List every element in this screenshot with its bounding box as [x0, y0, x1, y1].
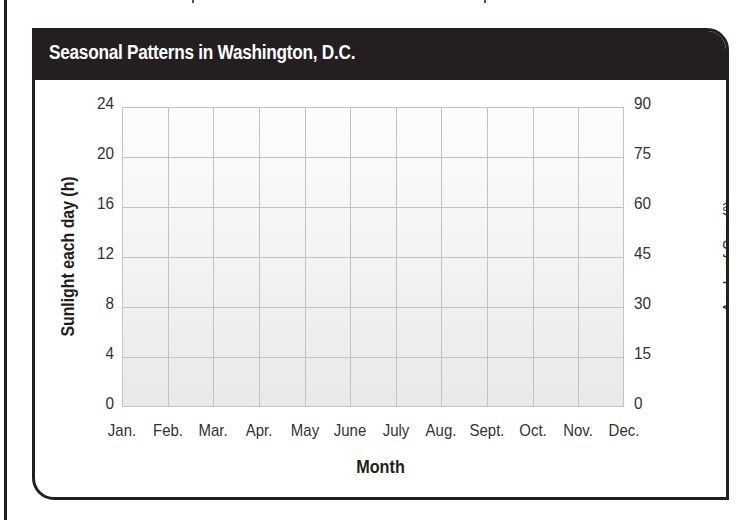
figure-header: Seasonal Patterns in Washington, D.C.	[35, 31, 726, 80]
y2-tick-label: 60	[634, 194, 670, 214]
y-tick-label: 0	[78, 394, 114, 414]
page-margin-rule	[4, 0, 7, 520]
y-tick-label: 16	[78, 194, 114, 214]
y-tick-label: 24	[78, 94, 114, 114]
grid-line-horizontal	[123, 257, 623, 258]
cropped-text-fragment	[192, 0, 194, 3]
plot-area	[122, 107, 624, 407]
grid-line-vertical	[533, 108, 534, 406]
grid-line-vertical	[396, 108, 397, 406]
grid-line-horizontal	[123, 307, 623, 308]
grid-line-horizontal	[123, 207, 623, 208]
y2-tick-label: 0	[634, 394, 670, 414]
y-tick-label: 8	[78, 294, 114, 314]
y-tick-label: 4	[78, 344, 114, 364]
grid-line-horizontal	[123, 357, 623, 358]
left-y-axis-title: Sunlight each day (h)	[58, 169, 79, 345]
y2-tick-label: 45	[634, 244, 670, 264]
grid-line-vertical	[168, 108, 169, 406]
y2-tick-label: 30	[634, 294, 670, 314]
y-tick-label: 12	[78, 244, 114, 264]
x-tick-label: Dec.	[598, 421, 651, 441]
grid-line-vertical	[259, 108, 260, 406]
grid-line-vertical	[441, 108, 442, 406]
x-tick-label: Jan.	[96, 421, 149, 441]
y2-tick-label: 75	[634, 144, 670, 164]
y2-tick-label: 15	[634, 344, 670, 364]
grid-line-vertical	[487, 108, 488, 406]
grid-line-vertical	[213, 108, 214, 406]
grid-line-vertical	[350, 108, 351, 406]
x-tick-label: Apr.	[233, 421, 286, 441]
y2-tick-label: 90	[634, 94, 670, 114]
y-tick-label: 20	[78, 144, 114, 164]
grid-line-horizontal	[123, 157, 623, 158]
x-tick-label: Sept.	[461, 421, 514, 441]
chart-title: Seasonal Patterns in Washington, D.C.	[49, 41, 355, 64]
grid-line-vertical	[578, 108, 579, 406]
grid-line-vertical	[305, 108, 306, 406]
chart-figure: Seasonal Patterns in Washington, D.C. Su…	[32, 28, 729, 500]
cropped-text-fragment	[484, 0, 486, 3]
x-axis-title: Month	[70, 457, 692, 478]
right-y-axis-title: Angle of Sun (°)	[720, 169, 730, 345]
